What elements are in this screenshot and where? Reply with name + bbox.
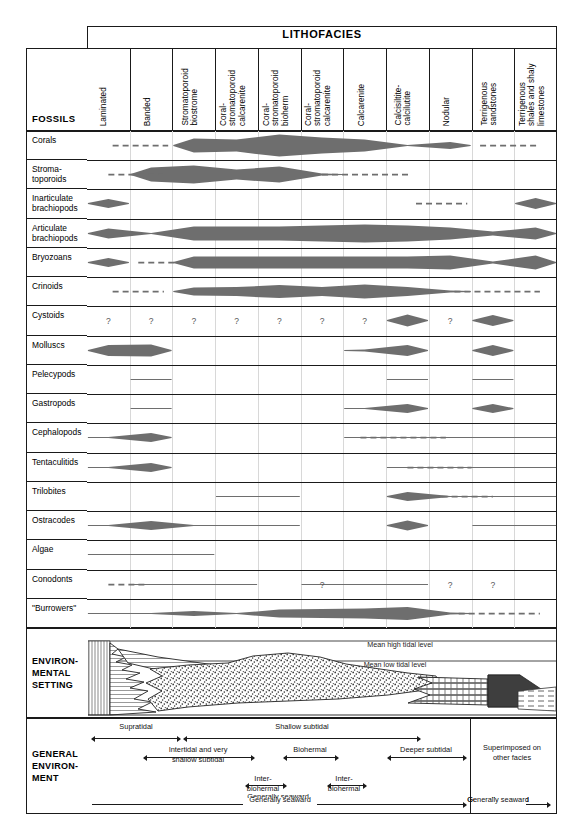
fossil-row-label-line: Cystoids: [32, 310, 87, 320]
abundance-lens-3: [87, 219, 557, 248]
fossil-row-label-line: Cephalopods: [32, 427, 87, 437]
zone-arrow-line: [92, 738, 180, 739]
column-header-text-5: Coral-stromatoporoidcalcarenite: [304, 70, 332, 126]
lens-segment: [173, 256, 556, 270]
fossil-row-label-7: Molluscs: [26, 336, 87, 365]
column-header-7: Calcisiltite-calcilutite: [386, 48, 429, 131]
column-header-text-9: Terrigenoussandstones: [480, 82, 499, 126]
fossil-row-label-line: Pelecypods: [32, 369, 87, 379]
zone-arrow-line: [184, 738, 420, 739]
column-header-1: Banded: [130, 48, 173, 131]
zone-arrow-head-right: [417, 736, 421, 742]
lens-segment: [173, 285, 470, 299]
column-header-text-4: Coral-stromatoporoidbioherm: [262, 70, 290, 126]
fossil-row-label-3: Articulatebrachiopods: [26, 219, 87, 248]
column-header-line: Laminated: [99, 87, 108, 126]
fossil-row-label-6: Cystoids: [26, 306, 87, 335]
column-header-line: calcarenite: [323, 70, 332, 126]
abundance-lens-12: [87, 482, 557, 511]
lens-segment: [88, 258, 129, 267]
env-label-line: ENVIRON-: [32, 655, 78, 667]
fossil-row-label-0: Corals: [26, 131, 87, 160]
zone-arrow-head-left: [143, 755, 147, 761]
abundance-lens-14: [87, 540, 557, 569]
column-header-line: bioherm: [280, 70, 289, 126]
abundance-lens-10: [87, 423, 557, 452]
zone-arrow-line: [388, 757, 466, 758]
fossil-row-label-8: Pelecypods: [26, 365, 87, 394]
zone-label-line: Biohermal: [293, 745, 326, 755]
lens-segment: [387, 379, 428, 380]
abundance-lens-15: ???: [87, 570, 557, 599]
fossil-row-label-4: Bryozoans: [26, 248, 87, 277]
gen-label-line: ENVIRON-: [32, 760, 78, 772]
zone-arrow-head-right: [547, 802, 551, 808]
zone-label-line: other facies: [483, 753, 541, 763]
env-label-line: MENTAL: [32, 667, 78, 679]
column-header-10: Terrigenousshales and shalylimestones: [514, 48, 557, 131]
column-header-text-7: Calcisiltite-calcilutite: [395, 85, 414, 126]
fossil-row-label-15: Conodonts: [26, 570, 87, 599]
column-header-2: Stromatoporoidbiostrome: [172, 48, 215, 131]
abundance-lens-9: [87, 394, 557, 423]
lens-segment: [173, 135, 470, 157]
column-header-line: Nodular: [442, 97, 451, 126]
abundance-lens-16: [87, 599, 557, 628]
column-header-text-6: Calcarenite: [356, 83, 365, 126]
fossil-row-label-14: Algae: [26, 540, 87, 569]
zone-label-line: Inter-: [247, 774, 279, 784]
abundance-lens-2: [87, 189, 557, 218]
gen-label-line: GENERAL: [32, 748, 78, 760]
fossil-row-label-2: Inarticulatebrachiopods: [26, 189, 87, 218]
cross-section-svg: [88, 629, 556, 717]
lens-segment: [131, 584, 258, 585]
column-header-9: Terrigenoussandstones: [472, 48, 515, 131]
column-header-line: Banded: [143, 97, 152, 126]
lens-segment: [216, 496, 300, 497]
fossils-corner-label: FOSSILS: [26, 48, 87, 131]
question-mark: ?: [149, 316, 154, 326]
zone-label-line: Deeper subtidal: [400, 745, 452, 755]
fossil-row-label-line: Stroma-: [32, 164, 87, 174]
zone-arrow-head-right: [463, 755, 467, 761]
gen-label-text: GENERALENVIRON-MENT: [26, 748, 78, 784]
column-header-line: calcarenite: [238, 70, 247, 126]
column-header-6: Calcarenite: [343, 48, 386, 131]
question-mark: ?: [448, 579, 453, 589]
question-mark: ?: [234, 316, 239, 326]
question-mark: ?: [106, 316, 111, 326]
figure-root: LITHOFACIES FOSSILS LaminatedBandedStrom…: [0, 0, 582, 831]
lithofacies-title: LITHOFACIES: [87, 28, 557, 40]
lens-segment: [515, 199, 556, 210]
zone-label-line: Shallow subtidal: [275, 722, 328, 732]
fossil-row-label-line: Articulate: [32, 223, 87, 233]
env-label-text: ENVIRON-MENTALSETTING: [26, 655, 78, 691]
gen-label-line: MENT: [32, 772, 78, 784]
column-header-line: stromatoporoid: [271, 70, 280, 126]
column-header-line: Calcisiltite-: [395, 85, 404, 126]
fossil-row-label-line: brachiopods: [32, 233, 87, 243]
column-header-line: Coral-: [219, 70, 228, 126]
column-header-line: calcilutite: [404, 85, 413, 126]
fossil-row-label-line: toporoids: [32, 174, 87, 184]
abundance-lens-0: [87, 131, 557, 160]
abundance-lens-5: [87, 277, 557, 306]
column-header-line: Terrigenous: [480, 82, 489, 126]
fossil-row-label-1: Stroma-toporoids: [26, 160, 87, 189]
lens-segment: [387, 315, 428, 327]
column-header-line: biostrome: [190, 69, 199, 126]
lens-segment: [472, 404, 513, 413]
fossil-row-label-line: Corals: [32, 135, 87, 145]
zone-arrow-head-left: [183, 736, 187, 742]
abundance-lens-4: [87, 248, 557, 277]
general-environment-zones: SupratidalShallow subtidalIntertidal and…: [88, 719, 556, 813]
column-header-8: Nodular: [429, 48, 472, 131]
zone-arrow-line: [246, 785, 286, 786]
lens-segment: [472, 525, 556, 526]
zone-label-line: Generally seaward: [249, 795, 311, 805]
zone-arrow-head-right: [363, 783, 367, 789]
fossil-row-label-11: Tentaculitids: [26, 453, 87, 482]
column-header-0: Laminated: [87, 48, 130, 131]
lens-segment: [88, 607, 471, 620]
zone-label-line: Generally seaward: [467, 795, 529, 805]
